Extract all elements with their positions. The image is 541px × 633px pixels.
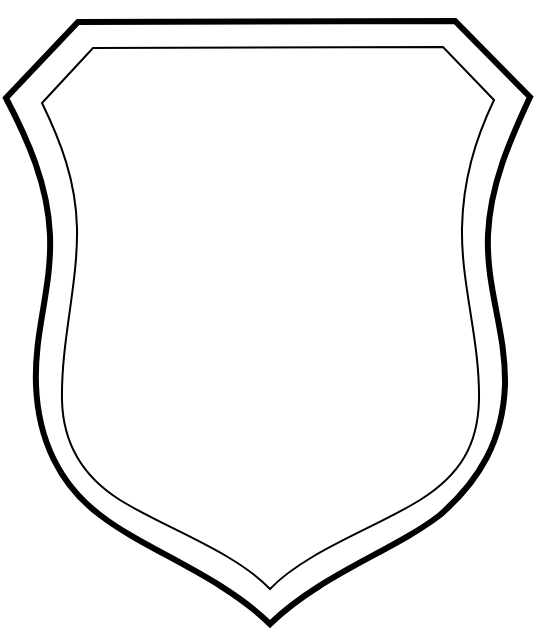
shield-canvas	[0, 0, 541, 633]
shield-icon	[0, 0, 541, 633]
